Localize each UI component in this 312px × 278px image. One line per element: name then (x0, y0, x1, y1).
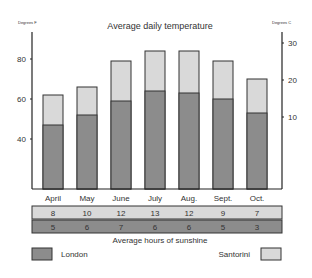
bar-london (111, 101, 131, 189)
sunshine-london-cell: 3 (255, 223, 260, 232)
y-tick-right: 10 (288, 113, 297, 122)
sunshine-london-cell: 6 (153, 223, 158, 232)
x-tick-label: Oct. (250, 194, 265, 203)
y-tick-left: 40 (17, 135, 26, 144)
y-tick-right: 20 (288, 76, 297, 85)
temperature-chart: Average daily temperature Degrees F Degr… (0, 0, 312, 278)
sunshine-london-cell: 6 (85, 223, 90, 232)
sunshine-santorini-cell: 12 (117, 209, 126, 218)
sunshine-santorini-cell: 9 (221, 209, 226, 218)
bar-london (179, 93, 199, 189)
y-tick-right: 30 (288, 39, 297, 48)
legend-swatch-santorini (261, 248, 281, 260)
legend-label-santorini: Santorini (218, 250, 250, 259)
legend-label-london: London (61, 250, 88, 259)
x-tick-label: Sept. (214, 194, 233, 203)
y-tick-left: 60 (17, 95, 26, 104)
bar-london (43, 125, 63, 189)
bar-london (247, 113, 267, 189)
chart-title: Average daily temperature (107, 21, 212, 31)
right-axis-unit: Degrees C (272, 20, 291, 25)
x-axis-labels: AprilMayJuneJulyAug.Sept.Oct. (45, 194, 264, 203)
sunshine-london-cell: 6 (187, 223, 192, 232)
x-tick-label: April (45, 194, 61, 203)
bars-group (43, 51, 267, 189)
x-tick-label: June (112, 194, 130, 203)
x-tick-label: Aug. (181, 194, 197, 203)
sunshine-london-cell: 5 (51, 223, 56, 232)
sunshine-santorini-cell: 12 (185, 209, 194, 218)
bar-london (145, 91, 165, 189)
left-axis-unit: Degrees F (18, 20, 37, 25)
sunshine-table: 851061271361269573 (32, 206, 282, 233)
sunshine-santorini-cell: 10 (83, 209, 92, 218)
sunshine-santorini-cell: 8 (51, 209, 56, 218)
sunshine-london-cell: 5 (221, 223, 226, 232)
right-axis: 102030 (282, 32, 297, 189)
sunshine-santorini-cell: 13 (151, 209, 160, 218)
sunshine-london-cell: 7 (119, 223, 124, 232)
sunshine-santorini-cell: 7 (255, 209, 260, 218)
x-tick-label: May (79, 194, 94, 203)
bar-london (77, 115, 97, 189)
x-tick-label: July (148, 194, 162, 203)
y-tick-left: 80 (17, 55, 26, 64)
legend-swatch-london (32, 248, 52, 260)
bar-london (213, 99, 233, 189)
sunshine-title: Average hours of sunshine (112, 236, 208, 245)
